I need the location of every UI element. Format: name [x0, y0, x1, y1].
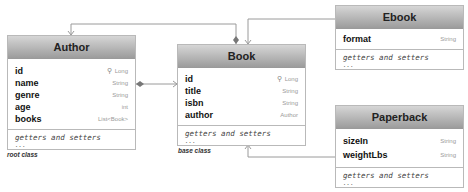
field-type: List<Book> [98, 116, 128, 122]
class-ebook-methods: getters and setters ... [336, 50, 463, 70]
field-type: String [112, 80, 128, 86]
class-paperback[interactable]: Paperback sizeIn String weightLbs String… [335, 105, 464, 188]
class-author-fields: id ⚲Long name String genre String age in… [8, 59, 135, 130]
field-name: format [343, 34, 371, 44]
field-row: books List<Book> [15, 113, 128, 125]
field-row: age int [15, 101, 128, 113]
caption-base-class: base class [178, 147, 211, 154]
field-row: weightLbs String [343, 148, 456, 162]
class-book-methods: getters and setters ... [178, 126, 305, 146]
field-name: id [15, 66, 23, 76]
class-paperback-title: Paperback [336, 106, 463, 129]
field-row: title String [185, 85, 298, 97]
field-name: name [15, 78, 39, 88]
methods-more: ... [343, 180, 456, 185]
field-type: Long [285, 76, 298, 82]
field-name: title [185, 86, 201, 96]
field-name: sizeIn [343, 136, 368, 146]
class-book-fields: id ⚲Long title String isbn String author… [178, 68, 305, 126]
field-type: String [440, 36, 456, 42]
field-type: Long [115, 68, 128, 74]
field-name: books [15, 114, 42, 124]
field-row: id ⚲Long [15, 65, 128, 77]
methods-more: ... [185, 138, 298, 143]
field-type-wrap: ⚲Long [107, 67, 128, 75]
methods-text: getters and setters [185, 129, 298, 138]
class-book[interactable]: Book id ⚲Long title String isbn String a… [177, 44, 306, 146]
class-book-title: Book [178, 45, 305, 68]
field-name: id [185, 74, 193, 84]
field-name: genre [15, 90, 40, 100]
class-ebook-fields: format String [336, 29, 463, 50]
caption-root-class: root class [7, 151, 38, 158]
class-paperback-fields: sizeIn String weightLbs String [336, 129, 463, 168]
class-author-methods: getters and setters ... [8, 130, 135, 150]
field-name: isbn [185, 98, 204, 108]
field-type: String [440, 152, 456, 158]
field-type: int [122, 104, 128, 110]
field-type: String [112, 92, 128, 98]
class-author[interactable]: Author id ⚲Long name String genre String… [7, 35, 136, 150]
field-type: String [440, 138, 456, 144]
key-icon: ⚲ [107, 67, 112, 75]
field-name: age [15, 102, 31, 112]
field-row: sizeIn String [343, 134, 456, 148]
class-ebook[interactable]: Ebook format String getters and setters … [335, 5, 464, 70]
field-row: author Author [185, 109, 298, 121]
field-type: String [282, 88, 298, 94]
field-row: genre String [15, 89, 128, 101]
class-ebook-title: Ebook [336, 6, 463, 29]
field-type-wrap: ⚲Long [277, 75, 298, 83]
field-row: isbn String [185, 97, 298, 109]
field-type: Author [280, 112, 298, 118]
field-name: author [185, 110, 213, 120]
class-author-title: Author [8, 36, 135, 59]
methods-text: getters and setters [343, 53, 456, 62]
methods-text: getters and setters [343, 171, 456, 180]
key-icon: ⚲ [277, 75, 282, 83]
field-row: name String [15, 77, 128, 89]
methods-more: ... [15, 142, 128, 147]
methods-more: ... [343, 62, 456, 67]
field-row: id ⚲Long [185, 73, 298, 85]
class-paperback-methods: getters and setters ... [336, 168, 463, 188]
field-name: weightLbs [343, 150, 388, 160]
methods-text: getters and setters [15, 133, 128, 142]
field-row: format String [343, 33, 456, 45]
field-type: String [282, 100, 298, 106]
